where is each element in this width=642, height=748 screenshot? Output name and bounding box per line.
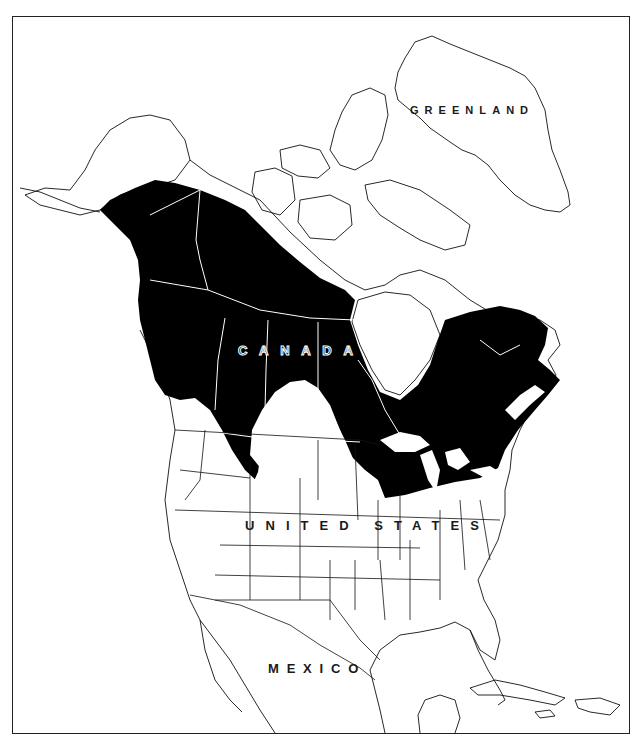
ellesmere-island: [330, 88, 388, 170]
label-greenland: GREENLAND: [410, 104, 534, 116]
baja-california: [200, 620, 242, 712]
label-mexico: MEXICO: [268, 661, 366, 676]
jamaica: [535, 710, 555, 718]
cuba: [470, 680, 565, 705]
hispaniola: [575, 698, 620, 715]
victoria-island: [298, 195, 352, 240]
greenland-outline: [395, 36, 570, 212]
arctic-islands: [280, 145, 330, 178]
arctic-islands-2: [252, 168, 295, 215]
yucatan-peninsula: [418, 695, 460, 733]
label-united-states: UNITED STATES: [245, 518, 490, 533]
label-canada: CANADA: [238, 343, 365, 358]
north-america-map: [0, 0, 642, 748]
baffin-island: [365, 180, 470, 250]
